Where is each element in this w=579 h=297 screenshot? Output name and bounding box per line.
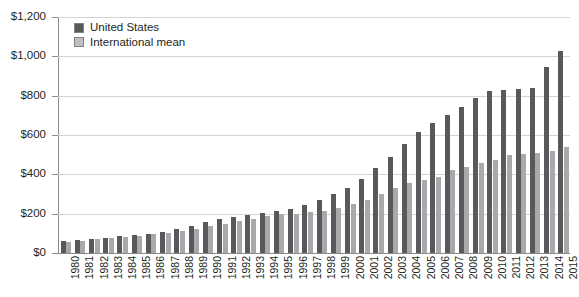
bar-group xyxy=(528,17,542,253)
bar-united-states xyxy=(160,232,165,253)
bar-international-mean xyxy=(208,226,213,253)
bar-united-states xyxy=(459,107,464,253)
bar-group xyxy=(543,17,557,253)
x-axis-tick-label: 2015 xyxy=(568,256,579,279)
x-axis-tick-label: 2008 xyxy=(468,256,479,279)
y-axis-tick-label: $800 xyxy=(20,90,46,102)
bar-united-states xyxy=(217,219,222,253)
bar-united-states xyxy=(89,239,94,253)
legend: United States International mean xyxy=(74,22,185,48)
x-axis-tick-label: 1999 xyxy=(340,256,351,279)
x-axis-tick-label: 1985 xyxy=(141,256,152,279)
bar-united-states xyxy=(189,226,194,253)
bar-united-states xyxy=(174,229,179,253)
x-axis-tick-label: 2003 xyxy=(397,256,408,279)
legend-swatch-united-states-icon xyxy=(74,23,84,33)
x-axis-tick-label: 1980 xyxy=(70,256,81,279)
x-axis-tick-label: 1997 xyxy=(312,256,323,279)
legend-swatch-international-mean-icon xyxy=(74,37,84,47)
bar-united-states xyxy=(373,168,378,253)
y-axis-tick-label: $600 xyxy=(20,129,46,141)
x-axis-tick-label: 2014 xyxy=(554,256,565,279)
bar-international-mean xyxy=(180,231,185,253)
bar-united-states xyxy=(473,98,478,253)
bar-international-mean xyxy=(351,204,356,253)
bar-united-states xyxy=(402,144,407,253)
bar-international-mean xyxy=(166,233,171,253)
bar-international-mean xyxy=(336,208,341,253)
bar-group xyxy=(159,17,173,253)
bar-group xyxy=(301,17,315,253)
bar-international-mean xyxy=(294,214,299,253)
bar-united-states xyxy=(416,132,421,253)
y-axis: $0$200$400$600$800$1,000$1,200 xyxy=(0,0,58,297)
bar-international-mean xyxy=(436,177,441,253)
bar-united-states xyxy=(388,157,393,253)
bar-group xyxy=(386,17,400,253)
x-axis-tick-label: 2011 xyxy=(511,256,522,279)
x-axis-tick-label: 2012 xyxy=(525,256,536,279)
x-axis-tick-label: 2000 xyxy=(355,256,366,279)
bar-international-mean xyxy=(493,160,498,253)
bar-united-states xyxy=(516,89,521,253)
bar-group xyxy=(443,17,457,253)
x-axis-tick-label: 1989 xyxy=(198,256,209,279)
bar-international-mean xyxy=(422,180,427,253)
bar-international-mean xyxy=(521,154,526,253)
legend-item: United States xyxy=(74,22,185,34)
bar-united-states xyxy=(231,217,236,253)
bar-group xyxy=(315,17,329,253)
bar-international-mean xyxy=(109,238,114,253)
bar-group xyxy=(173,17,187,253)
x-axis-tick-label: 1982 xyxy=(99,256,110,279)
bar-group xyxy=(400,17,414,253)
x-axis-tick-label: 1991 xyxy=(227,256,238,279)
bar-group xyxy=(557,17,571,253)
bar-united-states xyxy=(117,236,122,253)
bar-international-mean xyxy=(464,167,469,253)
bar-group xyxy=(500,17,514,253)
plot-area xyxy=(58,17,570,253)
bar-international-mean xyxy=(322,211,327,253)
y-axis-tick-label: $200 xyxy=(20,208,46,220)
bar-united-states xyxy=(274,211,279,253)
x-axis-tick-label: 1984 xyxy=(127,256,138,279)
x-axis-tick-label: 1990 xyxy=(212,256,223,279)
bar-group xyxy=(514,17,528,253)
bar-international-mean xyxy=(237,221,242,253)
bar-united-states xyxy=(245,215,250,253)
bar-united-states xyxy=(75,240,80,253)
bar-group xyxy=(144,17,158,253)
bar-group xyxy=(244,17,258,253)
bar-united-states xyxy=(359,179,364,253)
bar-group xyxy=(116,17,130,253)
x-axis-tick-label: 1988 xyxy=(184,256,195,279)
bar-group xyxy=(102,17,116,253)
bar-group xyxy=(201,17,215,253)
bar-united-states xyxy=(61,241,66,253)
bar-international-mean xyxy=(123,237,128,253)
x-axis-tick-label: 1998 xyxy=(326,256,337,279)
bar-group xyxy=(215,17,229,253)
x-axis-tick-label: 2010 xyxy=(497,256,508,279)
x-axis-tick-label: 2007 xyxy=(454,256,465,279)
x-axis-tick-label: 1995 xyxy=(283,256,294,279)
bar-international-mean xyxy=(535,153,540,253)
bar-group xyxy=(187,17,201,253)
bar-group xyxy=(343,17,357,253)
bar-united-states xyxy=(530,88,535,253)
bar-group xyxy=(486,17,500,253)
legend-label-international-mean: International mean xyxy=(90,37,185,49)
bar-international-mean xyxy=(450,170,455,253)
bar-united-states xyxy=(345,188,350,253)
bar-united-states xyxy=(288,209,293,253)
bar-united-states xyxy=(260,213,265,253)
x-axis-tick-label: 1992 xyxy=(241,256,252,279)
bar-united-states xyxy=(146,234,151,253)
bar-international-mean xyxy=(95,239,100,253)
bar-international-mean xyxy=(550,151,555,253)
bar-group xyxy=(372,17,386,253)
bar-united-states xyxy=(302,205,307,253)
bar-group xyxy=(230,17,244,253)
